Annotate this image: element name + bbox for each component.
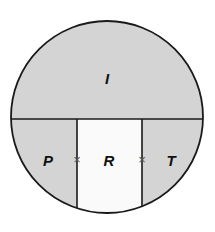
region-bottom-right-fill [142,119,215,232]
region-bottom-left-fill [0,119,77,232]
circle-diagram: I P R T × × [0,0,215,232]
region-bottom-middle-fill [77,119,142,232]
region-label-bottom-left: P [43,152,54,169]
region-fills [0,0,215,232]
figure-container: I P R T × × [0,0,215,232]
cross-mark-right: × [138,152,146,167]
cross-mark-left: × [73,152,81,167]
region-label-bottom-middle: R [104,152,115,169]
